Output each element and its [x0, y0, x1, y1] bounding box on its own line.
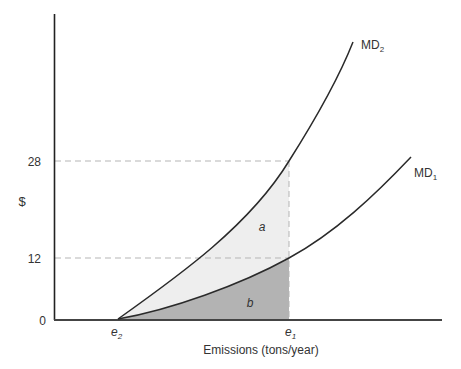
y-tick-12: 12 — [28, 252, 42, 266]
x-axis-label: Emissions (tons/year) — [203, 343, 318, 357]
x-tick-e2: e2 — [111, 325, 123, 341]
x-tick-e1: e1 — [285, 325, 296, 341]
area-b-label: b — [247, 296, 254, 310]
y-tick-0: 0 — [39, 314, 46, 328]
y-tick-28: 28 — [28, 155, 42, 169]
md1-label: MD1 — [414, 166, 438, 182]
md2-label: MD2 — [361, 38, 385, 54]
emissions-diagram: 28 12 0 $ e2 e1 Emissions (tons/year) MD… — [0, 0, 461, 369]
y-axis-label: $ — [18, 194, 26, 209]
area-a-label: a — [259, 220, 266, 234]
